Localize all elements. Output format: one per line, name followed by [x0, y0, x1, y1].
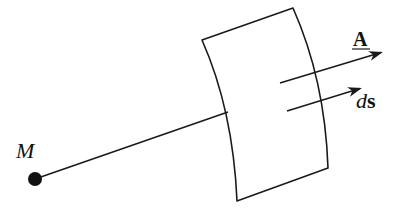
label-point-m: M: [15, 138, 36, 163]
vector-a-arrow: [280, 53, 381, 84]
line-m-to-surface: [35, 112, 228, 179]
area-element-ds-arrow: [287, 89, 360, 112]
point-m-dot: [28, 172, 42, 186]
diagram-canvas: M A ds: [0, 0, 400, 211]
label-area-element-ds: ds: [356, 88, 376, 113]
label-vector-a: A: [353, 28, 368, 50]
label-ds-s: s: [367, 88, 376, 113]
